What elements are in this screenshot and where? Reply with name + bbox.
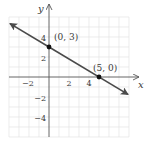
y-tick-label: 4 [41,34,46,43]
point-x-intercept [97,75,102,80]
y-tick-label: −2 [34,94,46,103]
y-tick-label: −4 [34,114,46,123]
y-tick-label: 2 [41,54,46,63]
x-axis-label: x [138,79,144,90]
point-y-intercept [47,45,52,50]
x-tick-label: 2 [66,79,71,88]
coordinate-graph: x y −2 2 4 4 2 −2 −4 (0, 3) (5, 0) [0,0,147,141]
point-label-y-intercept: (0, 3) [54,32,78,42]
y-axis-label: y [37,3,44,14]
point-label-x-intercept: (5, 0) [93,63,117,73]
x-tick-label: −2 [22,79,34,88]
x-tick-label: 4 [86,79,91,88]
